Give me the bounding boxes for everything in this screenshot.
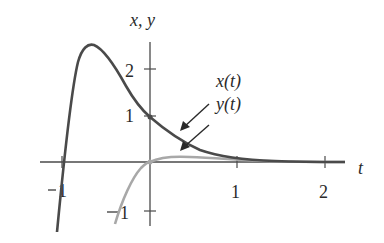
annotation-y-label: y(t) [214,94,241,115]
x-at-zero-dot [148,115,153,120]
y-tick-label-1: 1 [125,106,134,126]
annotation-x-arrow [180,104,209,131]
t-tick-label-1: 1 [231,182,240,202]
t-tick-label-neg1: 1 [48,181,67,201]
annotation-x-label: x(t) [215,71,241,92]
y-tick-label-2: 2 [125,61,134,81]
x-curve [57,45,345,232]
t-tick-label-2: 2 [319,182,328,202]
t-axis-label: t [358,158,364,178]
origin-dot [148,160,153,165]
chart: 1 1 2 2 1 1 x, y t x(t) y(t) [0,0,384,243]
xy-axis-label: x, y [129,10,155,30]
